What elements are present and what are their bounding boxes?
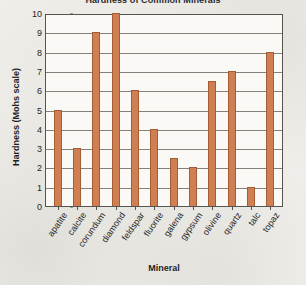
x-tick-label-quartz: quartz	[221, 211, 243, 237]
y-tick-label: 5	[26, 106, 42, 115]
bar-feldspar	[131, 90, 139, 206]
y-tick-label: 2	[26, 164, 42, 173]
x-axis-tick-labels: apatitecalcitecorundumdiamondfeldsparflu…	[45, 211, 283, 257]
y-axis-tick-labels: 012345678910	[26, 14, 42, 207]
x-tick-label-apatite: apatite	[46, 211, 69, 238]
x-tick-mark	[96, 207, 97, 210]
bar-calcite	[73, 148, 81, 206]
y-tick-label: 1	[26, 183, 42, 192]
y-tick-label: 8	[26, 48, 42, 57]
plot-area	[45, 14, 283, 207]
bar-galena	[170, 158, 178, 206]
bar-apatite	[54, 110, 62, 207]
x-tick-mark	[270, 207, 271, 210]
y-axis-title: Hardness (Mohs scale)	[11, 52, 21, 182]
bar-quartz	[228, 71, 236, 206]
x-tick-mark	[212, 207, 213, 210]
chart-title: Hardness of Common Minerals	[0, 0, 306, 5]
x-tick-mark	[135, 207, 136, 210]
bar-fluorite	[150, 129, 158, 206]
x-axis-title: Mineral	[45, 263, 283, 273]
bar-diamond	[112, 13, 120, 206]
y-tick-label: 9	[26, 29, 42, 38]
bar-topaz	[266, 52, 274, 206]
y-tick-label: 3	[26, 145, 42, 154]
y-tick-label: 0	[26, 203, 42, 212]
y-tick-label: 6	[26, 87, 42, 96]
x-tick-mark	[174, 207, 175, 210]
x-tick-mark	[193, 207, 194, 210]
x-tick-mark	[77, 207, 78, 210]
x-tick-label-olivine: olivine	[202, 211, 224, 237]
bar-talc	[247, 187, 255, 206]
x-tick-mark	[154, 207, 155, 210]
x-tick-mark	[232, 207, 233, 210]
bar-olivine	[208, 81, 216, 206]
bar-series	[46, 15, 282, 206]
bar-corundum	[92, 32, 100, 206]
x-tick-mark	[251, 207, 252, 210]
x-tick-label-talc: talc	[247, 211, 262, 228]
bar-gypsum	[189, 167, 197, 206]
x-tick-mark	[116, 207, 117, 210]
bar-chart-figure: Hardness of Common Minerals Hardness (Mo…	[0, 0, 306, 285]
x-tick-mark	[58, 207, 59, 210]
y-tick-label: 4	[26, 125, 42, 134]
x-tick-label-topaz: topaz	[262, 211, 282, 234]
y-tick-label: 7	[26, 67, 42, 76]
y-tick-label: 10	[26, 10, 42, 19]
